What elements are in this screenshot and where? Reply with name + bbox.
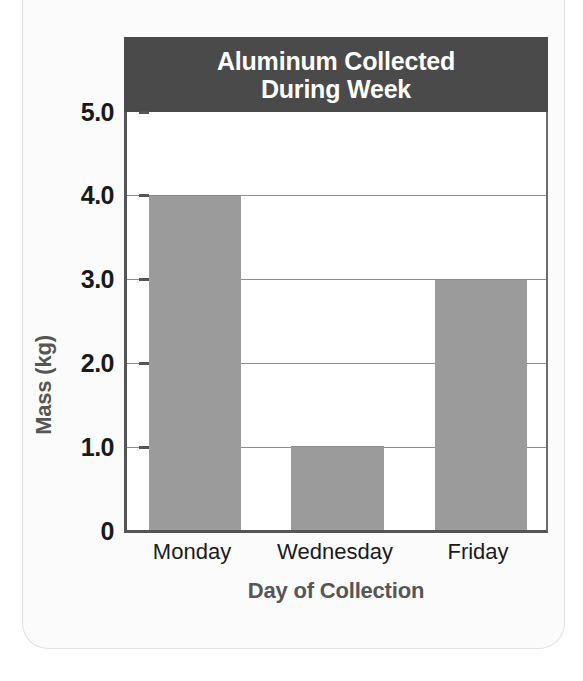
y-tick-mark-5: [139, 111, 149, 114]
x-tick-label-wednesday: Wednesday: [277, 539, 393, 565]
y-tick-mark-0: [139, 530, 149, 533]
y-tick-label-5: 5.0: [81, 98, 114, 127]
y-tick-label-3: 3.0: [81, 265, 114, 294]
chart-title-banner: Aluminum Collected During Week: [124, 37, 548, 112]
y-tick-label-1: 1.0: [81, 433, 114, 462]
bar-chart-figure: Aluminum Collected During Week 5.0 4.0 3…: [0, 0, 583, 681]
x-tick-label-monday: Monday: [153, 539, 231, 565]
y-tick-mark-1: [139, 446, 149, 449]
bar-monday[interactable]: [149, 195, 241, 530]
chart-screenshot: Aluminum Collected During Week 5.0 4.0 3…: [0, 0, 583, 681]
plot-area: [124, 112, 548, 533]
y-axis-label: Mass (kg): [24, 310, 64, 460]
y-tick-mark-4: [139, 194, 149, 197]
x-axis-label: Day of Collection: [124, 578, 548, 604]
y-tick-mark-3: [139, 278, 149, 281]
y-tick-label-4: 4.0: [81, 181, 114, 210]
y-tick-label-0: 0: [101, 517, 114, 546]
y-tick-mark-2: [139, 362, 149, 365]
y-axis-label-text: Mass (kg): [31, 335, 57, 435]
x-tick-label-friday: Friday: [447, 539, 508, 565]
bars-layer: [127, 112, 546, 530]
bar-wednesday[interactable]: [291, 446, 384, 530]
y-tick-label-2: 2.0: [81, 349, 114, 378]
bar-friday[interactable]: [435, 279, 527, 530]
chart-title: Aluminum Collected During Week: [217, 47, 455, 103]
